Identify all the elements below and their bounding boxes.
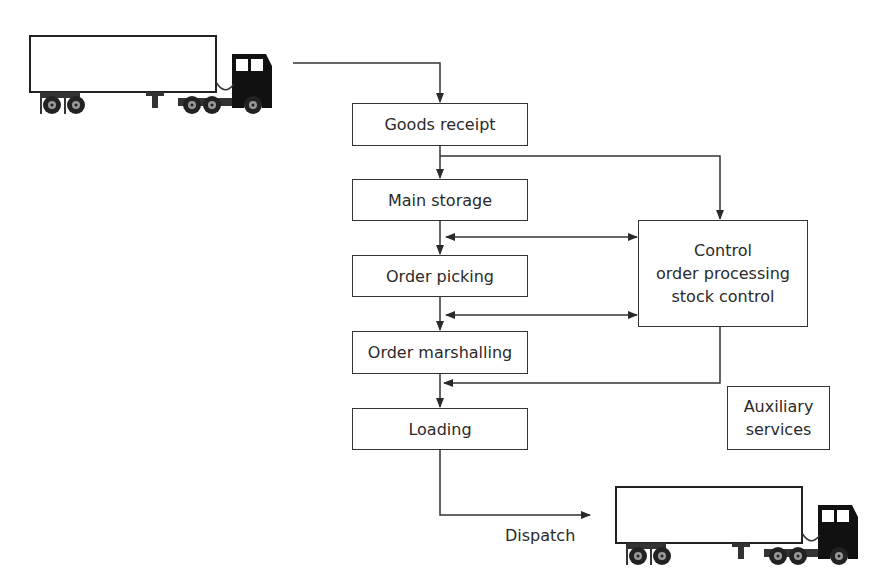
node-label-line: stock control xyxy=(671,285,774,308)
node-loading: Loading xyxy=(352,408,528,450)
outgoing-truck-icon xyxy=(612,483,864,569)
node-label: Order marshalling xyxy=(368,341,512,364)
node-label: Loading xyxy=(408,418,471,441)
arrow-truck-to-goods-receipt xyxy=(293,63,440,102)
arrow-loading-to-dispatch xyxy=(440,450,590,515)
node-auxiliary-services: Auxiliary services xyxy=(727,386,830,450)
node-order-picking: Order picking xyxy=(352,255,528,297)
node-label-line: Control xyxy=(694,239,752,262)
node-main-storage: Main storage xyxy=(352,179,528,221)
node-label: Goods receipt xyxy=(384,113,495,136)
node-label-line: order processing xyxy=(656,262,790,285)
node-label: Order picking xyxy=(386,265,494,288)
node-label-line: services xyxy=(746,418,812,441)
node-label-line: Auxiliary xyxy=(744,395,814,418)
node-goods-receipt: Goods receipt xyxy=(352,103,528,146)
dispatch-label: Dispatch xyxy=(505,526,575,545)
node-control: Control order processing stock control xyxy=(638,220,808,327)
node-label: Main storage xyxy=(388,189,492,212)
node-order-marshalling: Order marshalling xyxy=(352,331,528,374)
incoming-truck-icon xyxy=(26,32,278,118)
